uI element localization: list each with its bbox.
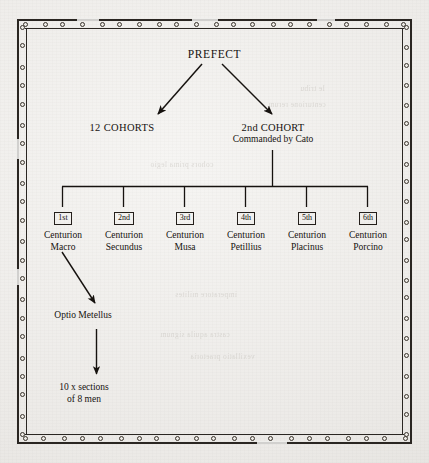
centurion-title: Centurion (337, 230, 399, 241)
centurion-name: Placinus (276, 242, 338, 253)
rank-badge: 1st (54, 212, 71, 225)
rank-badge: 4th (237, 212, 255, 225)
centurion-title: Centurion (154, 230, 216, 241)
node-centurion-6: 6th Centurion Porcino (337, 206, 399, 254)
node-12-cohorts-label: 12 COHORTS (89, 122, 154, 133)
node-sections-line1: 10 x sections (59, 382, 109, 392)
centurion-name: Secundus (93, 242, 155, 253)
edge-macro-to-optio (62, 252, 95, 303)
centurion-title: Centurion (215, 230, 277, 241)
centurion-title: Centurion (276, 230, 338, 241)
node-12-cohorts: 12 COHORTS (62, 122, 182, 134)
edge-prefect-to-12-cohorts (158, 64, 202, 114)
centurion-title: Centurion (32, 230, 94, 241)
node-centurion-5: 5th Centurion Placinus (276, 206, 338, 254)
node-optio-label: Optio Metellus (54, 310, 111, 320)
centurion-name: Macro (32, 242, 94, 253)
centurion-name: Petillius (215, 242, 277, 253)
node-prefect-label: PREFECT (188, 48, 241, 60)
rank-badge: 5th (298, 212, 316, 225)
scanned-page: le tribu centurione rerum cohors prima l… (0, 0, 429, 463)
rank-badge: 3rd (176, 212, 195, 225)
centurion-name: Musa (154, 242, 216, 253)
node-2nd-cohort-commander: Commanded by Cato (200, 134, 346, 145)
node-centurion-1: 1st Centurion Macro (32, 206, 94, 254)
rank-badge: 6th (359, 212, 377, 225)
node-centurion-3: 3rd Centurion Musa (154, 206, 216, 254)
edge-prefect-to-2nd-cohort (222, 64, 272, 114)
centurion-title: Centurion (93, 230, 155, 241)
node-centurion-4: 4th Centurion Petillius (215, 206, 277, 254)
node-2nd-cohort: 2nd COHORT Commanded by Cato (200, 122, 346, 146)
rank-badge: 2nd (114, 212, 134, 225)
node-2nd-cohort-label: 2nd COHORT (242, 122, 305, 133)
node-optio-metellus: Optio Metellus (28, 310, 138, 321)
hierarchy-chart: PREFECT 12 COHORTS 2nd COHORT Commanded … (0, 0, 429, 463)
node-centurion-2: 2nd Centurion Secundus (93, 206, 155, 254)
node-sections-line2: of 8 men (30, 394, 138, 406)
node-sections: 10 x sections of 8 men (30, 382, 138, 406)
node-prefect: PREFECT (0, 48, 429, 62)
centurion-name: Porcino (337, 242, 399, 253)
